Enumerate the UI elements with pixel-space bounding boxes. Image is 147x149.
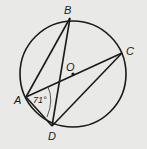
label-o: O bbox=[66, 61, 75, 73]
label-c: C bbox=[126, 45, 134, 57]
label-a: A bbox=[13, 94, 21, 106]
circle-diagram-svg: B C O A D 71° bbox=[0, 0, 147, 149]
label-d: D bbox=[48, 130, 56, 142]
angle-arc-a bbox=[47, 87, 51, 117]
label-b: B bbox=[64, 4, 71, 16]
geometry-diagram: B C O A D 71° bbox=[0, 0, 147, 149]
angle-label-71: 71° bbox=[33, 95, 47, 105]
